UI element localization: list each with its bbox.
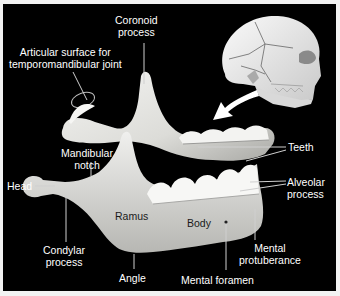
label-line: Mandibular [61,147,113,159]
label-line: process [287,188,325,200]
label-line: Condylar [43,244,85,256]
label-teeth: Teeth [288,141,314,153]
label-line: Coronoid [115,14,158,26]
label-body: Body [187,217,211,229]
label-articular-surface: Articular surface for temporomandibular … [9,46,122,70]
label-ramus: Ramus [115,210,148,222]
label-line: Body [187,217,211,229]
label-line: Angle [119,272,146,284]
arrow-icon [213,90,259,120]
label-line: process [43,256,85,268]
label-head: Head [7,180,32,192]
label-line: process [115,26,158,38]
skull-inset-icon [222,16,321,108]
label-angle: Angle [119,272,146,284]
label-line: Ramus [115,210,148,222]
label-mental-foramen: Mental foramen [181,274,254,286]
label-line: notch [61,159,113,171]
label-line: protuberance [239,254,301,266]
label-line: Mental foramen [181,274,254,286]
label-mental-protuberance: Mental protuberance [239,242,301,266]
diagram-frame: Coronoid process Articular surface for t… [3,4,336,291]
label-line: Alveolar [287,176,325,188]
label-line: temporomandibular joint [9,58,122,70]
label-mandibular-notch: Mandibular notch [61,147,113,171]
label-line: Mental [239,242,301,254]
label-line: Head [7,180,32,192]
label-line: Articular surface for [9,46,122,58]
label-condylar-process: Condylar process [43,244,85,268]
label-alveolar-process: Alveolar process [287,176,325,200]
label-line: Teeth [288,141,314,153]
label-coronoid-process: Coronoid process [115,14,158,38]
